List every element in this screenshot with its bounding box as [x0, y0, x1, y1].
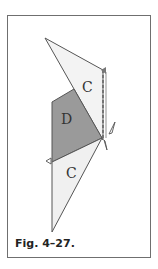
arrowhead-right-icon — [109, 122, 115, 134]
label-c-lower: C — [66, 165, 77, 181]
figure-caption: Fig. 4–27. — [15, 237, 75, 250]
diagram: C D C — [0, 0, 158, 269]
arrowhead-down-icon — [104, 140, 107, 150]
label-d: D — [61, 111, 72, 127]
label-c-upper: C — [82, 79, 93, 95]
arrowhead-left-icon — [46, 158, 51, 164]
